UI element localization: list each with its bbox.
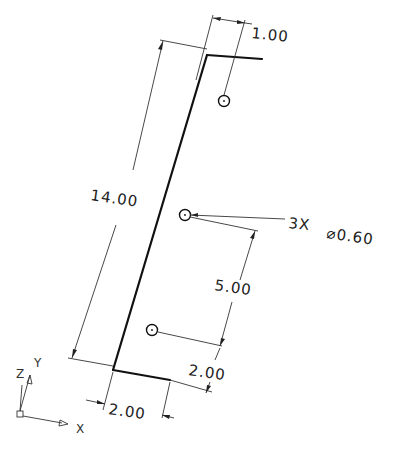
dimension-hole-spacing: 5.00 xyxy=(158,217,258,346)
extension-line xyxy=(68,358,113,366)
coordinate-triad: X Y Z xyxy=(16,356,84,436)
dimension-bottom-hole-offset: 2.00 xyxy=(170,348,227,393)
hole-bottom-center xyxy=(151,329,153,331)
dim-text-hole-spacing: 5.00 xyxy=(213,276,253,299)
dimension-line-lower xyxy=(72,225,116,358)
arrowhead xyxy=(72,349,77,358)
dim-text-overall-length: 14.00 xyxy=(89,186,139,210)
extension-line xyxy=(160,40,207,49)
callout-count: 3X xyxy=(288,214,312,234)
extension-line xyxy=(190,217,258,231)
extension-line xyxy=(158,332,222,346)
hole-middle-center xyxy=(184,214,186,216)
extension-line xyxy=(170,380,212,392)
dimension-overall-length: 14.00 xyxy=(68,40,207,366)
arrowhead xyxy=(213,17,221,21)
dimension-line-upper xyxy=(215,348,220,360)
part-bottom-edge xyxy=(113,370,170,380)
arrowhead xyxy=(250,231,255,239)
callout-diameter: ⌀0.60 xyxy=(325,224,374,248)
dimension-bottom-width: 2.00 xyxy=(86,372,174,423)
extension-line xyxy=(162,382,170,418)
dim-text-bottom-hole-offset: 2.00 xyxy=(187,361,227,384)
part-long-edge xyxy=(113,55,207,370)
z-axis-label: Z xyxy=(16,367,24,381)
arrowhead xyxy=(162,415,170,419)
dimension-line-upper xyxy=(133,41,163,170)
y-axis-label: Y xyxy=(33,356,42,370)
leader-tail xyxy=(245,23,252,24)
dim-text-top-offset: 1.00 xyxy=(251,24,290,46)
engineering-drawing: 1.00 14.00 3X ⌀0.60 5.00 2.00 xyxy=(0,0,399,449)
arrowhead xyxy=(158,41,163,50)
hole-top-center xyxy=(223,100,225,102)
hole-callout: 3X ⌀0.60 xyxy=(190,213,375,249)
arrowhead xyxy=(191,213,198,217)
arrowhead xyxy=(220,338,225,346)
callout-leader xyxy=(190,215,285,219)
dim-text-bottom-width: 2.00 xyxy=(107,400,147,423)
x-axis-label: X xyxy=(76,422,84,436)
triad-origin xyxy=(17,411,23,417)
x-axis-line xyxy=(23,416,62,423)
